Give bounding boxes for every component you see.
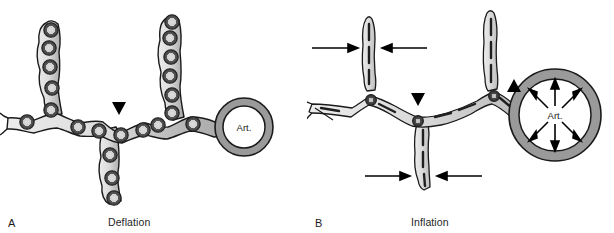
panel-b-graphic: Art.	[307, 0, 614, 233]
endothelial-cell	[165, 106, 179, 120]
panel-a-deflation: Art. A Deflation	[0, 0, 307, 233]
endothelial-nucleus	[413, 116, 424, 127]
capillary-network-deflated	[0, 15, 224, 205]
endothelial-cell	[20, 115, 34, 129]
endothelial-nucleus	[366, 95, 377, 106]
endothelial-cell	[114, 128, 128, 142]
arteriole-deflated: Art.	[215, 98, 273, 156]
panel-b-caption: Inflation	[411, 216, 449, 228]
panel-a-letter: A	[8, 217, 16, 229]
endothelial-cell	[44, 23, 58, 37]
endothelial-cell	[92, 124, 106, 138]
endothelial-cell	[103, 148, 117, 162]
endothelial-cell	[107, 191, 121, 205]
arteriole-label: Art.	[237, 122, 252, 133]
endothelial-cell	[151, 118, 165, 132]
panel-b-letter: B	[315, 217, 323, 229]
capillary-tail-lower	[0, 129, 7, 135]
panel-a-caption: Deflation	[108, 216, 150, 228]
endothelial-cell	[186, 117, 200, 131]
capillary-tail-upper	[0, 113, 8, 118]
endothelial-cell	[163, 69, 177, 83]
arteriole-label: Art.	[548, 110, 563, 121]
panel-b-inflation: Art. B Inflation	[307, 0, 614, 233]
compression-arrow-upper-right-head	[382, 44, 392, 52]
arteriole-distended: Art.	[509, 69, 601, 161]
panel-a-graphic: Art.	[0, 0, 307, 233]
compression-arrow-upper-left-head	[348, 44, 358, 52]
endothelial-cell	[42, 41, 56, 55]
endothelial-cell	[71, 120, 85, 134]
down-triangle-icon	[112, 102, 126, 115]
capillary-tail-lower	[307, 113, 312, 121]
endothelial-nucleus	[489, 91, 500, 102]
compression-arrow-lower-left-head	[400, 172, 410, 180]
compression-arrow-lower-right-head	[437, 172, 447, 180]
endothelial-cell-group	[20, 15, 200, 205]
capillary-tail-upper	[307, 101, 312, 104]
endothelial-cell	[136, 123, 150, 137]
endothelial-cell	[165, 15, 179, 29]
endothelial-cell	[43, 60, 57, 74]
endothelial-cell	[44, 103, 58, 117]
endothelial-cell	[105, 171, 119, 185]
capillary-network-stretched	[307, 11, 520, 190]
figure-root: Art. A Deflation	[0, 0, 614, 233]
endothelial-cell	[165, 88, 179, 102]
endothelial-cell	[45, 81, 59, 95]
endothelium-line	[424, 174, 425, 186]
endothelial-cell	[164, 50, 178, 64]
down-triangle-icon	[411, 93, 425, 106]
endothelial-cell	[163, 31, 177, 45]
